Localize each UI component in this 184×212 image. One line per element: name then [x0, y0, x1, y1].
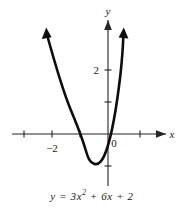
equation-term3: 2: [128, 190, 134, 202]
y-axis: [104, 20, 112, 186]
equation-term1-exponent: 2: [82, 188, 86, 197]
x-axis: [12, 130, 166, 138]
y-axis-label: y: [105, 5, 111, 17]
parabola-plot: x y −2 0 2: [0, 0, 184, 190]
curve-left-arrow-icon: [42, 28, 52, 40]
equation-lhs: y: [50, 190, 55, 202]
x-tick-label--2: −2: [46, 142, 58, 154]
equation-plus-1: +: [90, 190, 98, 202]
y-axis-arrow-icon: [104, 20, 112, 30]
equation-plus-2: +: [116, 190, 124, 202]
equation-term2: 6x: [101, 190, 113, 202]
equation-caption: y = 3x2 + 6x + 2: [0, 190, 184, 202]
x-axis-arrow-icon: [156, 130, 166, 138]
y-tick-label-2: 2: [94, 64, 100, 76]
origin-label: 0: [111, 137, 117, 149]
curve-right-arrow-icon: [119, 28, 129, 39]
equation-equals: =: [59, 190, 67, 202]
parabola-figure: x y −2 0 2 y = 3x2 + 6x + 2: [0, 0, 184, 212]
x-axis-label: x: [169, 128, 175, 140]
